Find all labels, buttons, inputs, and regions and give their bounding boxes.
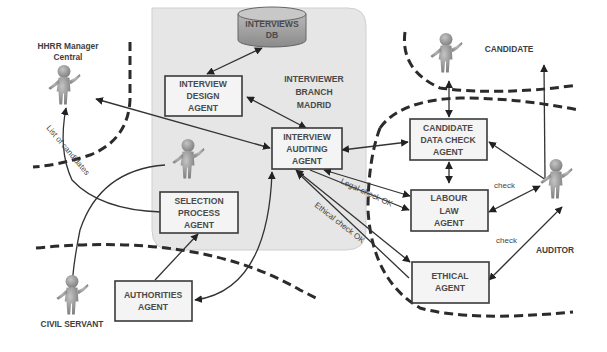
agent-label: AGENT [138, 302, 169, 312]
person-icon [56, 275, 88, 315]
actor-label: AUDITOR [536, 245, 574, 255]
agent-label: AGENT [188, 103, 219, 113]
selection-process-agent: SELECTION PROCESS AGENT [160, 192, 238, 233]
interviews-db: INTERVIEWS DB [238, 7, 306, 47]
boundary-candidate-upper [404, 32, 578, 91]
agent-label: AGENT [433, 147, 464, 157]
label-check-labour: check [494, 181, 516, 190]
candidate-actor: CANDIDATE [430, 33, 533, 73]
agent-label: LABOUR [431, 193, 469, 203]
label-check-ethical: check [496, 236, 518, 245]
agent-label: ETHICAL [431, 271, 468, 281]
person-icon [48, 65, 80, 105]
agent-label: CANDIDATE [423, 123, 473, 133]
agent-label: AGENT [184, 220, 215, 230]
db-label-line1: INTERVIEWS [245, 19, 299, 29]
edge-interviewer-civil-servant [72, 165, 165, 292]
actor-label: HHRR Manager [38, 41, 100, 51]
authorities-agent: AUTHORITIES AGENT [115, 281, 192, 321]
agent-label: DATA CHECK [420, 135, 476, 145]
labour-law-agent: LABOUR LAW AGENT [411, 190, 488, 231]
agent-label: SELECTION [174, 196, 223, 206]
agent-label: AGENT [292, 156, 323, 166]
interview-design-agent: INTERVIEW DESIGN AGENT [165, 76, 242, 116]
region-label-line3: MADRID [297, 100, 331, 110]
agent-label: AUTHORITIES [124, 290, 183, 300]
actor-label: CIVIL SERVANT [41, 319, 105, 329]
agent-label: AGENT [435, 283, 466, 293]
ethical-agent: ETHICAL AGENT [412, 262, 489, 303]
edge-auditor-up [544, 65, 545, 178]
multi-agent-diagram: INTERVIEWER BRANCH MADRID List of candid… [0, 0, 607, 352]
edge-auditor-candidate-check [489, 142, 546, 180]
region-label-line2: BRANCH [295, 87, 332, 97]
civil-servant-actor: CIVIL SERVANT [41, 275, 105, 329]
agent-label: AUDITING [286, 144, 328, 154]
actor-label: Central [54, 52, 83, 62]
agent-label: LAW [439, 206, 459, 216]
actor-label: CANDIDATE [485, 44, 534, 54]
agent-label: DESIGN [187, 91, 220, 101]
db-label-line2: DB [266, 30, 278, 40]
person-icon [430, 33, 462, 73]
agent-label: INTERVIEW [283, 132, 331, 142]
agent-label: INTERVIEW [179, 79, 227, 89]
region-label-line1: INTERVIEWER [284, 74, 344, 84]
agent-label: PROCESS [178, 208, 220, 218]
interview-auditing-agent: INTERVIEW AUDITING AGENT [272, 128, 342, 169]
agent-label: AGENT [434, 218, 465, 228]
hhrr-manager-actor: HHRR Manager Central [38, 41, 100, 104]
candidate-data-check-agent: CANDIDATE DATA CHECK AGENT [410, 119, 487, 160]
auditor-actor: AUDITOR [536, 159, 574, 255]
